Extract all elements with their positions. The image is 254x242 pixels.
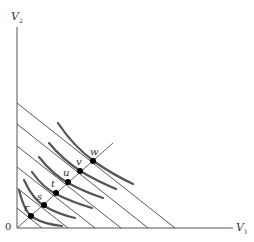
y-axis-label: V2 — [11, 12, 23, 26]
point-label-s: s — [37, 192, 42, 202]
diagram-canvas — [0, 0, 254, 242]
point-u — [65, 179, 71, 185]
isoquant-diagram: V2 V1 0 r s t u v w — [0, 0, 254, 242]
x-axis-label: V1 — [236, 223, 248, 237]
point-w — [90, 158, 96, 164]
point-label-r: r — [24, 203, 29, 213]
point-t — [53, 190, 59, 196]
point-s — [41, 202, 47, 208]
origin-label: 0 — [5, 222, 11, 232]
point-v — [77, 168, 83, 174]
point-label-t: t — [51, 179, 55, 189]
budget-lines — [17, 103, 175, 228]
point-label-v: v — [76, 157, 82, 167]
point-label-w: w — [90, 147, 99, 157]
point-label-u: u — [63, 168, 69, 178]
point-r — [28, 213, 34, 219]
